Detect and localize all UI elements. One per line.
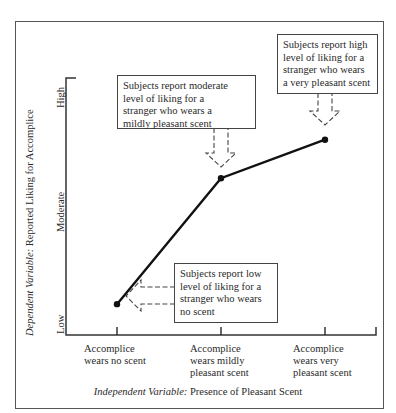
x-tick-label-0: Accomplice wears no scent: [84, 343, 146, 367]
callout-line: mildly pleasant scent: [123, 118, 250, 131]
callout-line: no scent: [180, 306, 272, 319]
moderate-callout-arrow: [206, 128, 236, 167]
callout-moderate: Subjects report moderate level of liking…: [117, 75, 256, 129]
x-tick-label-line: Accomplice: [293, 343, 352, 355]
y-tick-label-low: Low: [55, 315, 66, 334]
x-tick-label-line: Accomplice: [84, 343, 146, 355]
y-axis-title: Dependent Variable: Reported Liking for …: [24, 109, 35, 336]
x-tick-label-line: wears very: [293, 355, 352, 367]
callout-line: Subjects report moderate: [123, 80, 250, 93]
y-tick-label-high: High: [55, 87, 66, 108]
callout-line: level of liking for a: [283, 52, 372, 65]
callout-line: level of liking for a: [180, 281, 272, 294]
x-tick-label-line: wears no scent: [84, 355, 146, 367]
x-tick-label-2: Accomplice wears very pleasant scent: [293, 343, 352, 379]
x-tick-label-line: wears mildly: [190, 355, 249, 367]
callout-line: a very pleasant scent: [283, 77, 372, 90]
x-axis-title: Independent Variable: Presence of Pleasa…: [0, 386, 396, 397]
data-point: [114, 301, 120, 307]
callout-low: Subjects report low level of liking for …: [174, 263, 278, 323]
x-axis-title-text: Presence of Pleasant Scent: [187, 386, 302, 397]
data-point: [322, 136, 328, 142]
callout-line: Subjects report low: [180, 268, 272, 281]
x-tick-label-1: Accomplice wears mildly pleasant scent: [190, 343, 249, 379]
callout-line: stranger who wears: [283, 64, 372, 77]
callout-line: stranger who wears: [180, 293, 272, 306]
x-tick-label-line: pleasant scent: [190, 367, 249, 379]
data-point: [218, 175, 224, 181]
y-tick-label-moderate: Moderate: [55, 192, 66, 232]
x-tick-label-line: Accomplice: [190, 343, 249, 355]
callout-high: Subjects report high level of liking for…: [277, 34, 378, 94]
y-axis-title-variable: Dependent Variable:: [24, 249, 35, 336]
callout-line: level of liking for a: [123, 93, 250, 106]
y-axis-title-text: Reported Liking for Accomplice: [24, 109, 35, 248]
high-callout-arrow: [310, 93, 340, 125]
x-tick-label-line: pleasant scent: [293, 367, 352, 379]
callout-line: Subjects report high: [283, 39, 372, 52]
callout-line: stranger who wears a: [123, 105, 250, 118]
x-axis-title-variable: Independent Variable:: [94, 386, 188, 397]
